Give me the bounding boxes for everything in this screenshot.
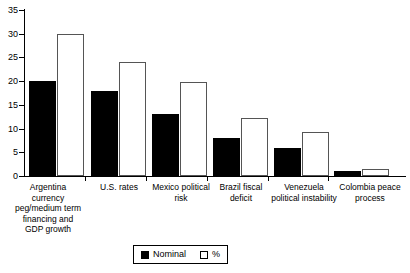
y-tick-label-35: 35 bbox=[0, 6, 18, 15]
category-label: Colombia peace process bbox=[330, 182, 410, 203]
bar-group bbox=[91, 10, 147, 176]
y-tick-label-15: 15 bbox=[0, 101, 18, 110]
bar-percent bbox=[119, 62, 146, 176]
x-tick bbox=[328, 177, 329, 181]
y-tick-label-25: 25 bbox=[0, 53, 18, 62]
bar-nominal bbox=[274, 148, 301, 176]
bar-nominal bbox=[29, 81, 56, 176]
bar-group bbox=[274, 10, 330, 176]
bar-group bbox=[213, 10, 269, 176]
bar-percent bbox=[180, 82, 207, 176]
x-axis-line bbox=[24, 176, 406, 177]
bar-group bbox=[334, 10, 390, 176]
bar-nominal bbox=[213, 138, 240, 176]
filled-square-icon bbox=[141, 251, 149, 259]
bar-nominal bbox=[334, 171, 361, 176]
y-tick-label-10: 10 bbox=[0, 125, 18, 134]
y-tick-0 bbox=[19, 176, 24, 177]
open-square-icon bbox=[200, 251, 208, 259]
bar-percent bbox=[362, 169, 389, 176]
plot-area bbox=[24, 10, 406, 176]
bar-nominal bbox=[91, 91, 118, 176]
y-tick-label-0: 0 bbox=[0, 172, 18, 181]
legend-label: % bbox=[212, 250, 220, 259]
y-tick-label-20: 20 bbox=[0, 77, 18, 86]
legend-item: Nominal bbox=[141, 250, 186, 259]
chart-legend: Nominal% bbox=[133, 245, 228, 264]
bar-percent bbox=[302, 132, 329, 176]
x-tick bbox=[85, 177, 86, 181]
legend-label: Nominal bbox=[153, 250, 186, 259]
bar-nominal bbox=[152, 114, 179, 176]
y-tick-label-5: 5 bbox=[0, 148, 18, 157]
bar-group bbox=[29, 10, 85, 176]
x-tick bbox=[146, 177, 147, 181]
y-tick-label-30: 30 bbox=[0, 30, 18, 39]
bar-percent bbox=[57, 34, 84, 176]
bar-group bbox=[152, 10, 208, 176]
bar-percent bbox=[241, 118, 268, 176]
x-tick bbox=[207, 177, 208, 181]
legend-item: % bbox=[200, 250, 220, 259]
bar-chart: 05101520253035 Argentina currency peg/me… bbox=[0, 0, 410, 273]
x-tick bbox=[268, 177, 269, 181]
